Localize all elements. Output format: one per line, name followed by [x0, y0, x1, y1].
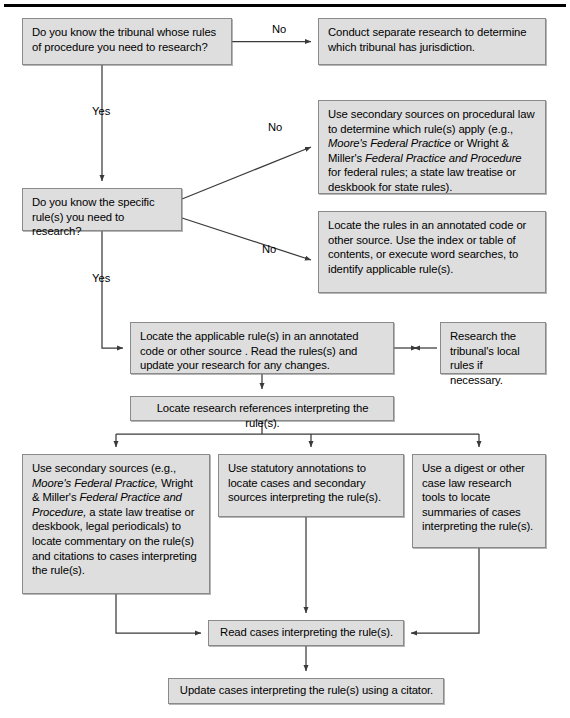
node-locate-rules-annotated-code[interactable]: Locate the rules in an annotated code or…: [318, 211, 546, 293]
edge-col3-to-read: [411, 548, 479, 633]
node-research-local-rules[interactable]: Research the tribunal's local rules if n…: [440, 322, 546, 374]
edge-label-no-3: No: [262, 243, 276, 255]
node-use-secondary-sources-procedural[interactable]: Use secondary sources on procedural law …: [318, 100, 546, 194]
node-conduct-separate-research[interactable]: Conduct separate research to determine w…: [318, 18, 546, 65]
edge-q2-no-lower: [182, 218, 311, 260]
edge-label-no-1: No: [272, 23, 286, 35]
node-label: Do you know the tribunal whose rules of …: [32, 26, 216, 53]
edge-label-no-2: No: [268, 121, 282, 133]
node-label: Use secondary sources (e.g., Moore's Fed…: [32, 462, 197, 576]
node-label: Read cases interpreting the rule(s).: [220, 626, 393, 638]
edge-label-yes-2: Yes: [92, 272, 110, 284]
node-locate-research-references[interactable]: Locate research references interpreting …: [130, 396, 394, 421]
node-use-statutory-annotations[interactable]: Use statutory annotations to locate case…: [218, 454, 404, 517]
edge-q2-no-upper: [182, 147, 311, 199]
edge-q2-yes: [102, 231, 123, 348]
node-label: Locate the rules in an annotated code or…: [328, 219, 526, 275]
node-label: Use statutory annotations to locate case…: [228, 462, 381, 503]
node-question-tribunal[interactable]: Do you know the tribunal whose rules of …: [22, 18, 232, 65]
flowchart-page: Do you know the tribunal whose rules of …: [0, 0, 570, 718]
node-use-digest-case-law-tools[interactable]: Use a digest or other case law research …: [412, 454, 546, 548]
node-label: Use secondary sources on procedural law …: [328, 108, 534, 193]
node-use-secondary-sources-commentary[interactable]: Use secondary sources (e.g., Moore's Fed…: [22, 454, 210, 594]
node-label: Conduct separate research to determine w…: [328, 26, 526, 53]
edge-label-yes-1: Yes: [92, 105, 110, 117]
edge-col1-to-read: [116, 594, 201, 633]
node-read-cases[interactable]: Read cases interpreting the rule(s).: [208, 620, 404, 646]
node-label: Update cases interpreting the rule(s) us…: [180, 684, 433, 696]
node-update-cases[interactable]: Update cases interpreting the rule(s) us…: [168, 678, 444, 704]
node-locate-applicable-rules[interactable]: Locate the applicable rule(s) in an anno…: [130, 322, 394, 374]
node-label: Locate the applicable rule(s) in an anno…: [140, 330, 358, 371]
node-label: Use a digest or other case law research …: [422, 462, 533, 532]
node-question-specific-rules[interactable]: Do you know the specific rule(s) you nee…: [22, 188, 182, 231]
